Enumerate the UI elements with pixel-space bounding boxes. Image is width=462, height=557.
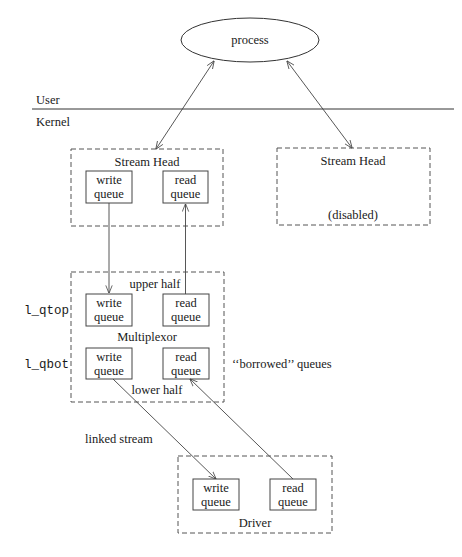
lower-half-label: lower half	[131, 383, 183, 397]
queue-label-line2: queue	[278, 495, 308, 509]
borrowed-queues-note: ‘‘borrowed’’ queues	[232, 357, 332, 371]
process-to-right-streamhead-arrow	[287, 61, 352, 148]
streams-multiplexor-diagram: process User Kernel Stream Head write qu…	[0, 0, 462, 557]
process-node: process	[181, 18, 319, 62]
queue-label-line1: write	[96, 296, 122, 310]
user-label: User	[36, 93, 60, 107]
linked-stream-label: linked stream	[85, 432, 153, 446]
process-to-left-streamhead-arrow	[156, 61, 214, 149]
queue-label-line1: write	[96, 173, 122, 187]
process-label: process	[231, 33, 269, 47]
queue-label-line1: read	[175, 173, 197, 187]
stream-head-right: Stream Head (disabled)	[277, 148, 430, 225]
queue-label-line1: read	[175, 296, 197, 310]
queue-label-line1: write	[203, 481, 229, 495]
queue-label-line1: read	[282, 481, 304, 495]
driver-title: Driver	[239, 516, 272, 530]
queue-label-line2: queue	[94, 310, 124, 324]
stream-head-left: Stream Head write queue read queue	[71, 149, 223, 226]
queue-label-line2: queue	[94, 187, 124, 201]
stream-head-read-queue: read queue	[163, 171, 208, 203]
driver: Driver write queue read queue	[178, 456, 332, 533]
upper-read-queue: read queue	[163, 294, 209, 326]
kernel-label: Kernel	[36, 115, 71, 129]
stream-head-left-title: Stream Head	[115, 155, 181, 169]
stream-head-right-title: Stream Head	[321, 154, 387, 168]
multiplexor: upper half Multiplexor lower half write …	[71, 272, 224, 402]
lower-write-queue: write queue	[86, 348, 132, 379]
driver-write-queue: write queue	[193, 479, 239, 510]
upper-write-queue: write queue	[86, 294, 132, 326]
queue-label-line2: queue	[171, 310, 201, 324]
driver-read-to-lower-arrow	[190, 379, 293, 479]
queue-label-line2: queue	[171, 187, 201, 201]
queue-label-line2: queue	[94, 364, 124, 378]
lower-read-queue: read queue	[163, 348, 209, 379]
multiplexor-title: Multiplexor	[117, 330, 178, 344]
queue-label-line1: read	[175, 350, 197, 364]
driver-read-queue: read queue	[270, 479, 316, 510]
stream-head-right-status: (disabled)	[328, 208, 378, 222]
l-qbot-label: l_qbot	[24, 358, 69, 372]
stream-head-write-queue: write queue	[86, 171, 132, 203]
queue-label-line2: queue	[171, 364, 201, 378]
queue-label-line1: write	[96, 350, 122, 364]
l-qtop-label: l_qtop	[24, 304, 69, 318]
upper-half-label: upper half	[129, 277, 181, 291]
user-kernel-boundary: User Kernel	[32, 93, 454, 129]
queue-label-line2: queue	[201, 495, 231, 509]
